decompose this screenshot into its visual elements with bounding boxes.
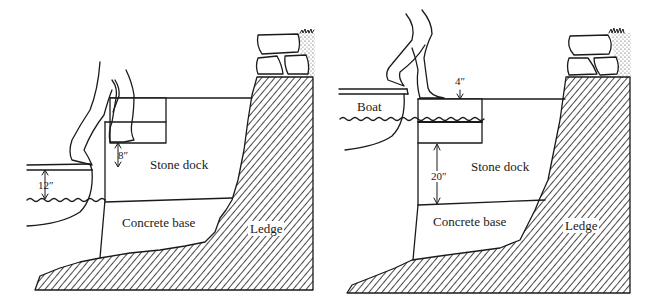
stone-wall-bottom-right xyxy=(594,57,618,75)
label-step-height: 8″ xyxy=(118,150,128,161)
label-dock-gap: 20″ xyxy=(431,171,447,182)
label-stone-dock-left: Stone dock xyxy=(150,158,208,171)
leg-front xyxy=(412,10,444,98)
boat-hull xyxy=(27,170,92,226)
label-ledge-right: Ledge xyxy=(563,218,599,233)
label-step-top: 4″ xyxy=(455,76,465,87)
ledge-rock xyxy=(35,77,313,290)
right-panel xyxy=(339,10,631,293)
label-concrete-base-left: Concrete base xyxy=(122,216,195,229)
label-stone-dock-right: Stone dock xyxy=(471,160,529,173)
label-boat: Boat xyxy=(357,100,382,113)
label-ledge-left: Ledge xyxy=(248,221,284,236)
stone-wall-top xyxy=(258,34,300,54)
stone-wall-top xyxy=(569,35,612,55)
label-boat-height: 12″ xyxy=(38,180,54,191)
stone-wall-bottom-right xyxy=(285,55,309,74)
label-concrete-base-right: Concrete base xyxy=(433,215,506,228)
leg-back xyxy=(70,62,112,165)
water-surface xyxy=(27,199,105,202)
leg-back xyxy=(387,14,425,86)
stone-wall-bottom-left xyxy=(257,56,284,74)
ledge-rock xyxy=(347,77,630,293)
stone-wall-bottom-left xyxy=(568,58,598,75)
diagram-drawing xyxy=(0,0,659,308)
dock-diagram: Stone dock Concrete base Ledge 12″ 8″ Bo… xyxy=(0,0,659,308)
